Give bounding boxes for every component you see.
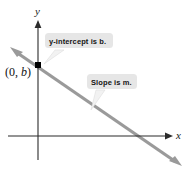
x-axis-label: x	[176, 130, 181, 141]
line-segment	[16, 52, 176, 162]
point-label-prefix: (0,	[5, 65, 21, 79]
slope-intercept-diagram: y x (0, b) y-intercept is b. Slope is m.	[0, 0, 189, 173]
x-axis	[8, 133, 173, 140]
y-intercept-point-marker	[35, 62, 41, 68]
intercept-callout-label: y-intercept is b.	[49, 38, 106, 46]
y-axis	[35, 20, 42, 160]
intercept-callout-tail	[44, 50, 64, 64]
y-axis-label: y	[35, 6, 40, 17]
x-axis-arrowhead	[165, 133, 173, 140]
y-intercept-coordinate-label: (0, b)	[5, 66, 31, 78]
slope-callout-label: Slope is m.	[91, 79, 132, 87]
y-axis-arrowhead	[35, 20, 42, 28]
point-label-suffix: )	[27, 65, 31, 79]
